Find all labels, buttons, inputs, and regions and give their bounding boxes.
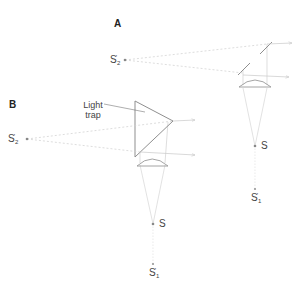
s2-a-prime: ' bbox=[116, 54, 117, 61]
panel-b-label: B bbox=[9, 100, 16, 110]
light-trap-label-line2: trap bbox=[80, 110, 106, 120]
lens-a bbox=[239, 80, 271, 87]
point-label-s1-a: S'1 bbox=[251, 193, 261, 204]
diagram-canvas bbox=[0, 0, 299, 285]
s1-b-subscript: 1 bbox=[156, 273, 159, 279]
point-label-s2-b: S'2 bbox=[8, 134, 18, 145]
panel-b-optics bbox=[26, 101, 195, 265]
s1-b-prime: ' bbox=[155, 267, 156, 274]
lens-b bbox=[137, 159, 168, 166]
point-label-s-a: S bbox=[261, 141, 268, 151]
s2-b-subscript: 2 bbox=[15, 139, 18, 145]
point-s1-a bbox=[254, 188, 256, 190]
optics-diagram: A S'2 S S'1 B Light trap S'2 S S'1 bbox=[0, 0, 299, 285]
light-trap-leader bbox=[104, 104, 145, 112]
point-s2-a bbox=[124, 59, 127, 62]
mirror-a-lower bbox=[238, 63, 250, 75]
point-s2-b bbox=[26, 138, 29, 141]
point-label-s-b: S bbox=[159, 219, 166, 229]
s1-a-prime: ' bbox=[257, 192, 258, 199]
point-s-b bbox=[152, 223, 155, 226]
s1-a-subscript: 1 bbox=[258, 198, 261, 204]
s2-a-subscript: 2 bbox=[117, 60, 120, 66]
panel-a-label: A bbox=[114, 19, 121, 29]
point-label-s1-b: S'1 bbox=[149, 268, 159, 279]
panel-a-optics bbox=[124, 42, 292, 190]
point-label-s2-a: S'2 bbox=[110, 55, 120, 66]
light-trap-label-line1: Light bbox=[80, 100, 106, 110]
s2-b-prime: ' bbox=[14, 133, 15, 140]
point-s1-b bbox=[152, 263, 154, 265]
point-s-a bbox=[254, 145, 257, 148]
light-trap-label: Light trap bbox=[80, 100, 106, 120]
